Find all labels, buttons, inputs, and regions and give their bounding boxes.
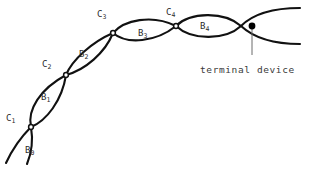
node-c1	[29, 125, 34, 130]
segment-label-b2: B2	[79, 50, 88, 59]
node-label-c4-sub: 4	[171, 11, 175, 19]
node-c3	[111, 31, 116, 36]
diagram-canvas: B0 B1 B2 B3 B4 C1 C2 C3 C4 terminal devi…	[0, 0, 316, 169]
segment-b2-shape	[66, 33, 113, 75]
terminal-device-dot	[249, 23, 256, 30]
node-label-c1: C1	[6, 114, 15, 123]
node-c4	[174, 24, 179, 29]
node-label-c3-sub: 3	[102, 13, 106, 21]
terminal-device-caption: terminal device	[200, 64, 295, 75]
segment-label-b1: B1	[41, 93, 50, 102]
segment-label-b0-sub: 0	[30, 149, 34, 157]
segment-label-b4: B4	[200, 22, 209, 31]
node-label-c2: C2	[42, 60, 51, 69]
segment-label-b1-sub: 1	[46, 96, 50, 104]
segment-label-b4-sub: 4	[205, 25, 209, 33]
lens-chain-drawing	[0, 0, 316, 169]
node-label-c4: C4	[166, 8, 175, 17]
node-label-c2-sub: 2	[47, 63, 51, 71]
node-c2	[64, 73, 69, 78]
node-label-c3: C3	[97, 10, 106, 19]
segment-label-b0: B0	[25, 146, 34, 155]
node-label-c1-sub: 1	[11, 117, 15, 125]
segment-label-b2-sub: 2	[84, 53, 88, 61]
segment-label-b3: B3	[138, 29, 147, 38]
segment-label-b3-sub: 3	[143, 32, 147, 40]
